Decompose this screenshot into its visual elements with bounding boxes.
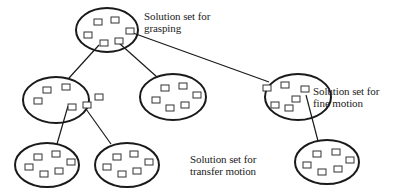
solution-box <box>292 96 300 102</box>
label-fine-motion-line-2: fine motion <box>313 97 379 109</box>
solution-box <box>166 105 174 111</box>
solution-box <box>161 85 169 91</box>
solution-box <box>34 154 42 160</box>
solution-box <box>84 32 92 38</box>
solution-box <box>67 159 75 165</box>
solution-box <box>334 166 342 172</box>
label-transfer-motion-line-1: Solution set for <box>190 153 256 165</box>
solution-box <box>145 159 153 165</box>
solution-box <box>271 102 279 108</box>
solution-box <box>115 38 123 44</box>
solution-box <box>68 104 76 110</box>
label-grasping-line-1: Solution set for <box>144 10 210 22</box>
solution-box <box>94 19 102 25</box>
solution-box <box>303 162 311 168</box>
label-grasping: Solution set for grasping <box>144 10 210 34</box>
solution-box <box>25 164 33 170</box>
node-mid-center <box>140 74 206 120</box>
solution-set-ellipse <box>23 77 89 123</box>
solution-box <box>100 40 108 46</box>
node-grasping <box>76 8 138 52</box>
solution-box <box>126 28 134 34</box>
solution-box <box>83 102 91 108</box>
solution-box <box>318 169 326 175</box>
solution-box <box>301 86 309 92</box>
solution-box <box>193 92 201 98</box>
solution-box <box>95 94 103 100</box>
solution-box <box>103 164 111 170</box>
edge-mid-left-to-bottom-left-2 <box>86 109 111 144</box>
solution-box <box>133 168 141 174</box>
solution-box <box>285 105 293 111</box>
label-transfer-motion-line-2: transfer motion <box>190 165 256 177</box>
solution-box <box>52 151 60 157</box>
solution-box <box>179 83 187 89</box>
node-bottom-left-1 <box>15 143 79 187</box>
label-fine-motion-line-1: Solution set for <box>313 85 379 97</box>
solution-box <box>55 168 63 174</box>
solution-box <box>281 82 289 88</box>
label-transfer-motion: Solution set for transfer motion <box>190 153 256 177</box>
label-fine-motion: Solution set for fine motion <box>313 85 379 109</box>
solution-box <box>111 17 119 23</box>
node-bottom-right <box>295 140 359 184</box>
solution-box <box>40 171 48 177</box>
solution-box <box>263 85 271 91</box>
solution-box <box>113 154 121 160</box>
solution-box <box>118 171 126 177</box>
solution-box <box>62 84 70 90</box>
solution-box <box>34 98 42 104</box>
node-bottom-left-2 <box>95 143 159 187</box>
solution-box <box>313 151 321 157</box>
solution-box <box>181 102 189 108</box>
solution-box <box>332 149 340 155</box>
solution-box <box>130 151 138 157</box>
label-grasping-line-2: grasping <box>144 22 210 34</box>
solution-box <box>346 157 354 163</box>
solution-box <box>43 87 51 93</box>
solution-box <box>152 97 160 103</box>
edge-grasping-to-fine-motion <box>133 33 269 82</box>
edge-mid-left-to-bottom-left-1 <box>57 106 68 144</box>
